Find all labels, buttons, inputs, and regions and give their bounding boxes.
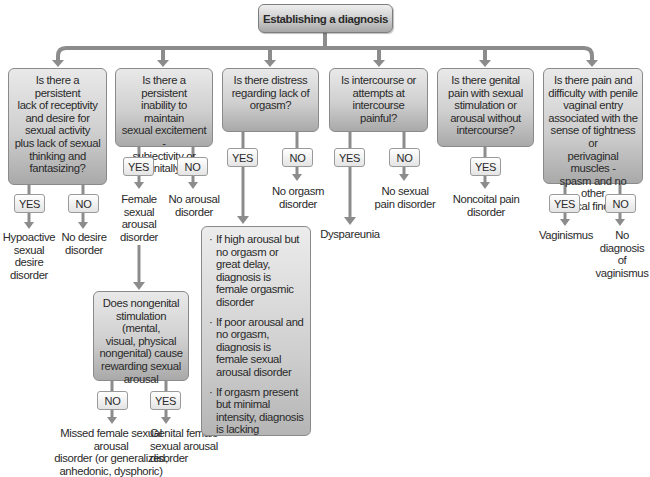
no-label-nongenital: NO: [97, 391, 128, 410]
note-item: If orgasm present but minimal intensity,…: [210, 386, 304, 436]
no-label-intercourse-pain: NO: [389, 148, 420, 167]
question-box-orgasm: Is there distressregarding lack oforgasm…: [222, 68, 319, 132]
flowchart-title: Establishing a diagnosis: [258, 4, 393, 33]
yes-label-vaginismus: YES: [549, 194, 580, 213]
outcome-no-arousal: No arousaldisorder: [168, 193, 220, 218]
no-label-vaginismus: NO: [605, 194, 636, 213]
outcome-no-vaginismus: No diagnosisof vaginismus: [594, 229, 650, 279]
yes-label-nongenital: YES: [150, 391, 181, 410]
question-box-intercourse-pain: Is intercourse orattempts atintercoursep…: [329, 68, 428, 132]
no-label-orgasm: NO: [282, 148, 313, 167]
note-item: If high arousal but no orgasm or great d…: [210, 233, 304, 309]
question-box-nongenital-stimulation: Does nongenitalstimulation (mental,visua…: [93, 291, 189, 381]
question-text: Is intercourse orattempts atintercoursep…: [341, 74, 416, 124]
question-text: Is there distressregarding lack oforgasm…: [232, 74, 310, 112]
yes-label-intercourse-pain: YES: [334, 148, 365, 167]
question-box-desire: Is there a persistentlack of receptivity…: [8, 68, 107, 185]
yes-label-arousal: YES: [123, 157, 154, 176]
title-text: Establishing a diagnosis: [263, 13, 388, 25]
question-box-noncoital-pain: Is there genitalpain with sexualstimulat…: [437, 68, 534, 147]
question-box-vaginismus: Is there pain anddifficulty with penilev…: [543, 68, 643, 184]
no-label-arousal: NO: [177, 157, 208, 176]
outcome-vaginismus: Vaginismus: [537, 229, 595, 242]
outcome-no-sexual-pain: No sexualpain disorder: [372, 185, 438, 210]
question-text: Is there genitalpain with sexualstimulat…: [448, 74, 523, 137]
note-item: If poor arousal and no orgasm, diagnosis…: [210, 316, 304, 379]
outcome-no-orgasm: No orgasmdisorder: [270, 185, 326, 210]
question-text: Is there pain anddifficulty with penilev…: [548, 74, 638, 213]
question-text: Does nongenitalstimulation (mental,visua…: [98, 297, 184, 385]
outcome-hypoactive-desire: Hypoactivesexualdesiredisorder: [0, 231, 58, 281]
outcome-noncoital-pain: Noncoital paindisorder: [448, 193, 524, 218]
question-box-arousal: Is there a persistentinability to mainta…: [115, 68, 213, 147]
no-label-desire: NO: [68, 194, 99, 213]
yes-label-desire: YES: [14, 194, 45, 213]
outcome-dyspareunia: Dyspareunia: [318, 228, 382, 241]
orgasm-diagnosis-notes: If high arousal but no orgasm or great d…: [201, 226, 311, 436]
yes-label-noncoital-pain: YES: [470, 157, 501, 176]
question-text: Is there a persistentlack of receptivity…: [13, 74, 102, 175]
outcome-female-arousal-disorder: Femalesexualarousaldisorder: [115, 193, 163, 243]
yes-label-orgasm: YES: [227, 148, 258, 167]
outcome-no-desire: No desiredisorder: [58, 231, 110, 256]
